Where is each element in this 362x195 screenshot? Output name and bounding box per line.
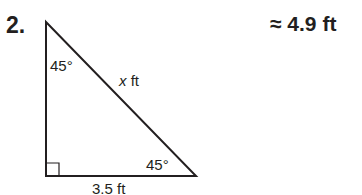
right-triangle-figure: [0, 0, 362, 195]
right-angle-marker: [46, 163, 59, 176]
triangle-outline: [46, 22, 196, 176]
hypotenuse-unit: ft: [127, 72, 140, 89]
hypotenuse-variable: x: [119, 72, 127, 89]
base-label: 3.5 ft: [92, 180, 125, 195]
angle-label-bottom-right: 45°: [146, 156, 169, 173]
angle-label-top: 45°: [50, 57, 73, 74]
hypotenuse-label: x ft: [119, 72, 139, 89]
